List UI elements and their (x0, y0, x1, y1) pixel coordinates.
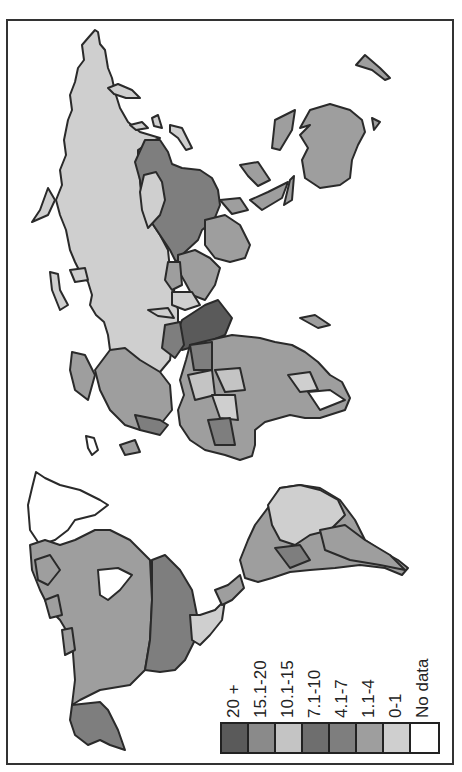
region-alaska (70, 702, 125, 750)
region-korea-japan (220, 198, 248, 214)
region-island (32, 188, 55, 222)
region-africa-north (190, 342, 212, 370)
legend-swatch (357, 724, 384, 752)
region-sakhalin (50, 272, 68, 310)
legend-label: 10.1-15 (279, 660, 296, 718)
region-island (70, 268, 88, 282)
legend-swatch (384, 724, 411, 752)
region-britain (120, 440, 140, 455)
legend-swatch (222, 724, 249, 752)
region-tasmania (372, 118, 380, 130)
region-new-zealand (356, 55, 390, 80)
legend-label: No data (414, 658, 431, 718)
region-scandinavia (70, 352, 95, 400)
legend (220, 722, 440, 754)
region-island (152, 115, 162, 128)
region-new-guinea (272, 110, 295, 150)
region-central-america (215, 575, 244, 605)
region-united-states (145, 555, 198, 672)
region-madagascar (300, 315, 330, 328)
region-philippines (240, 162, 270, 186)
legend-labels: 20 + 15.1-20 10.1-15 7.1-10 4.1-7 1.1-4 … (220, 602, 440, 718)
legend-swatch (330, 724, 357, 752)
legend-label: 0-1 (387, 693, 404, 718)
legend-label: 15.1-20 (252, 660, 269, 718)
legend-label: 20 + (225, 684, 242, 718)
legend-swatch (276, 724, 303, 752)
legend-swatch (411, 724, 438, 752)
legend-label: 7.1-10 (306, 670, 323, 718)
legend-swatch (249, 724, 276, 752)
region-southeast-asia (205, 215, 250, 262)
legend-swatch (303, 724, 330, 752)
region-australia (300, 104, 365, 188)
region-iceland (86, 436, 98, 455)
legend-label: 4.1-7 (333, 679, 350, 718)
region-japan (170, 125, 192, 150)
region-indonesia (250, 182, 288, 210)
legend-label: 1.1-4 (360, 679, 377, 718)
region-arctic-islands (62, 628, 75, 655)
region-arctic-islands (45, 595, 62, 618)
